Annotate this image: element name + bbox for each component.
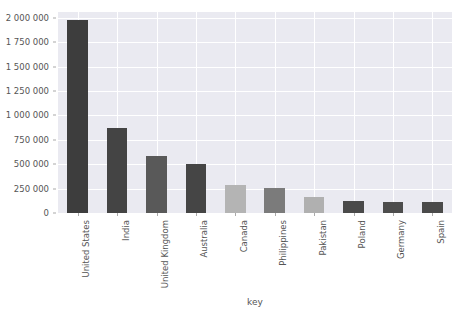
x-axis-tick-label: Australia: [199, 220, 209, 258]
x-axis-tick-label: Spain: [436, 220, 446, 244]
plot-area: [58, 12, 452, 213]
x-axis-tick-mark: [196, 213, 197, 216]
x-axis-tick-mark: [354, 213, 355, 216]
x-axis-tick-label: Philippines: [278, 220, 288, 266]
x-axis-tick-mark: [157, 213, 158, 216]
x-axis-title: key: [58, 297, 452, 307]
x-axis-tick-mark: [117, 213, 118, 216]
x-axis-tick-mark: [432, 213, 433, 216]
y-axis-tick-mark: [53, 91, 56, 92]
y-axis-tick-mark: [53, 139, 56, 140]
bar: [422, 202, 442, 213]
x-axis-tick-mark: [235, 213, 236, 216]
bar: [146, 156, 166, 213]
y-axis-tick-label: 2 000 000: [6, 13, 49, 23]
x-axis-tick-label: Canada: [239, 220, 249, 252]
y-axis-tick-label: 750 000: [14, 135, 49, 145]
bar-series: [58, 12, 452, 213]
x-axis-tick-label: India: [121, 220, 131, 241]
bar: [383, 202, 403, 214]
y-axis-tick-mark: [53, 188, 56, 189]
y-axis-tick-mark: [53, 66, 56, 67]
y-axis-tick-label: 1 250 000: [6, 86, 49, 96]
bar-chart-figure: 0250 000500 000750 0001 000 0001 250 000…: [0, 0, 470, 322]
bar: [264, 188, 284, 213]
bar: [225, 185, 245, 213]
y-axis-tick-mark: [53, 115, 56, 116]
y-axis-tick-label: 1 500 000: [6, 62, 49, 72]
x-axis-tick-mark: [393, 213, 394, 216]
x-axis-tick-mark: [314, 213, 315, 216]
bar: [304, 197, 324, 213]
x-axis-tick-label: United Kingdom: [160, 220, 170, 288]
bar: [343, 201, 363, 213]
bar: [107, 128, 127, 213]
x-axis-tick-mark: [275, 213, 276, 216]
x-axis-tick-label: United States: [81, 220, 91, 278]
y-axis: 0250 000500 000750 0001 000 0001 250 000…: [0, 12, 58, 213]
x-axis-tick-label: Poland: [357, 220, 367, 248]
y-axis-tick-label: 1 750 000: [6, 37, 49, 47]
bar: [186, 164, 206, 213]
y-axis-tick-label: 500 000: [14, 159, 49, 169]
y-axis-tick-label: 1 000 000: [6, 110, 49, 120]
x-axis-tick-label: Pakistan: [318, 220, 328, 256]
y-axis-tick-mark: [53, 42, 56, 43]
x-axis-tick-label: Germany: [396, 220, 406, 259]
y-axis-tick-mark: [53, 213, 56, 214]
y-axis-tick-mark: [53, 164, 56, 165]
y-axis-tick-mark: [53, 17, 56, 18]
x-axis-tick-mark: [78, 213, 79, 216]
y-axis-tick-label: 0: [44, 208, 49, 218]
bar: [67, 20, 87, 213]
y-axis-tick-label: 250 000: [14, 184, 49, 194]
